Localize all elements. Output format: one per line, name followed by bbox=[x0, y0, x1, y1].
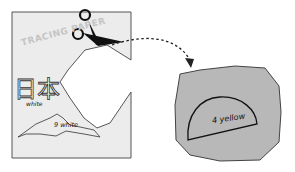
mountain-color-label: 9 white bbox=[54, 121, 78, 129]
kanji-color-label: white bbox=[26, 100, 42, 107]
arrow-head-icon bbox=[185, 58, 194, 68]
kanji-text: 日本 bbox=[14, 70, 60, 104]
